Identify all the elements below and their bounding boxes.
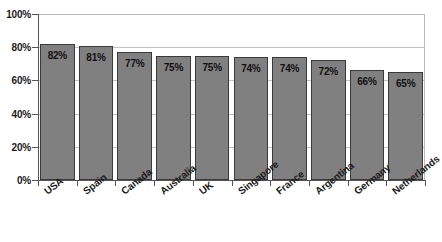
bar-usa: 82% xyxy=(40,44,75,180)
y-tick-60 xyxy=(32,80,38,81)
bar-singapore: 74% xyxy=(234,57,269,180)
x-label-uk: UK xyxy=(197,179,215,196)
y-tick-80 xyxy=(32,47,38,48)
x-tick xyxy=(193,181,194,186)
x-tick xyxy=(232,181,233,186)
y-tick-label: 80% xyxy=(0,42,31,53)
bar-value-label: 72% xyxy=(312,66,345,77)
bar-value-label: 77% xyxy=(118,58,151,69)
y-tick-label: 100% xyxy=(0,9,31,20)
bar-spain: 81% xyxy=(79,46,114,180)
bar-value-label: 75% xyxy=(157,62,190,73)
bar-canada: 77% xyxy=(117,52,152,180)
bar-france: 74% xyxy=(272,57,307,180)
bar-netherlands: 65% xyxy=(388,72,423,180)
y-tick-40 xyxy=(32,114,38,115)
bar-value-label: 82% xyxy=(41,50,74,61)
x-tick xyxy=(348,181,349,186)
x-tick xyxy=(115,181,116,186)
y-tick-label: 0% xyxy=(0,175,31,186)
x-tick xyxy=(386,181,387,186)
y-tick-label: 60% xyxy=(0,75,31,86)
bar-value-label: 74% xyxy=(235,63,268,74)
plot-area: 82%81%77%75%75%74%74%72%66%65% xyxy=(38,14,425,180)
x-tick xyxy=(38,181,39,186)
bar-value-label: 81% xyxy=(80,52,113,63)
bar-australia: 75% xyxy=(156,56,191,181)
bar-germany: 66% xyxy=(350,70,385,180)
y-tick-20 xyxy=(32,147,38,148)
y-tick-label: 20% xyxy=(0,141,31,152)
bar-uk: 75% xyxy=(195,56,230,181)
y-tick-100 xyxy=(32,14,38,15)
bar-value-label: 75% xyxy=(196,62,229,73)
bar-value-label: 65% xyxy=(389,78,422,89)
x-tick xyxy=(270,181,271,186)
bar-value-label: 66% xyxy=(351,76,384,87)
x-tick xyxy=(425,181,426,186)
x-tick xyxy=(77,181,78,186)
y-tick-label: 40% xyxy=(0,108,31,119)
bar-argentina: 72% xyxy=(311,60,346,180)
y-axis-line xyxy=(38,14,39,181)
x-tick xyxy=(309,181,310,186)
x-tick xyxy=(154,181,155,186)
bar-value-label: 74% xyxy=(273,63,306,74)
